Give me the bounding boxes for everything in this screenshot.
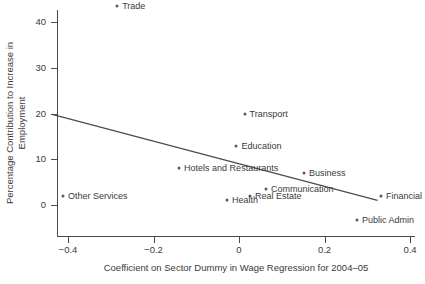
- data-point-marker: [235, 144, 238, 147]
- data-point-label: Real Estate: [255, 191, 302, 200]
- y-axis-line: [57, 10, 58, 236]
- data-point-label: Public Admin: [362, 216, 414, 225]
- data-point-marker: [356, 219, 359, 222]
- data-point-marker: [116, 5, 119, 8]
- y-tick-mark: [51, 159, 57, 160]
- data-point-marker: [61, 194, 64, 197]
- y-tick-label: 20: [35, 109, 46, 119]
- data-point-label: Education: [241, 141, 281, 150]
- y-axis-title-line1: Percentage Contribution to Increase in: [4, 42, 15, 204]
- data-point-label: Other Services: [68, 191, 128, 200]
- y-tick-label: 40: [35, 17, 46, 27]
- y-tick-mark: [51, 22, 57, 23]
- data-point-marker: [178, 167, 181, 170]
- regression-fit-line: [0, 0, 425, 284]
- x-axis-line: [57, 236, 415, 237]
- x-axis-title: Coefficient on Sector Dummy in Wage Regr…: [57, 262, 415, 273]
- data-point-label: Health: [232, 195, 258, 204]
- x-tick-mark: [154, 237, 155, 243]
- y-tick-mark: [51, 114, 57, 115]
- x-tick-mark: [68, 237, 69, 243]
- x-tick-mark: [325, 237, 326, 243]
- y-tick-label: 10: [35, 154, 46, 164]
- data-point-marker: [243, 112, 246, 115]
- scatter-plot-figure: 010203040 −0.4−0.200.20.4 TradeTransport…: [0, 0, 425, 284]
- y-tick-label: 30: [35, 63, 46, 73]
- x-tick-label: 0.4: [403, 245, 416, 255]
- y-tick-mark: [51, 68, 57, 69]
- data-point-label: Trade: [122, 2, 145, 11]
- x-tick-label: −0.2: [144, 245, 163, 255]
- data-point-label: Financial: [386, 191, 422, 200]
- data-point-label: Transport: [250, 109, 288, 118]
- data-point-marker: [379, 194, 382, 197]
- x-tick-mark: [410, 237, 411, 243]
- x-tick-label: −0.4: [59, 245, 78, 255]
- x-tick-mark: [239, 237, 240, 243]
- data-point-marker: [226, 198, 229, 201]
- x-tick-label: 0: [236, 245, 241, 255]
- data-point-label: Business: [309, 169, 346, 178]
- y-axis-title-line2: Employment: [16, 97, 27, 150]
- data-point-marker: [303, 172, 306, 175]
- x-tick-label: 0.2: [318, 245, 331, 255]
- y-tick-mark: [51, 205, 57, 206]
- data-point-label: Hotels and Restaurants: [184, 164, 278, 173]
- y-axis-title: Percentage Contribution to Increase in E…: [4, 10, 30, 236]
- y-tick-label: 0: [41, 200, 46, 210]
